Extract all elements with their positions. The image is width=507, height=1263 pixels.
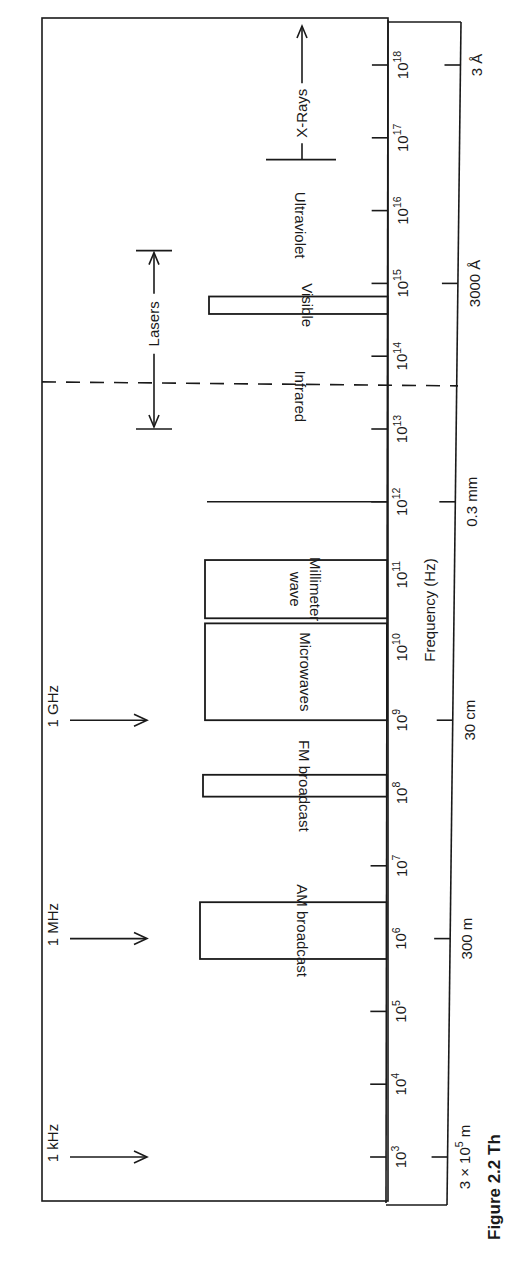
band-visible: [209, 297, 388, 314]
frequency-tick-label: 107: [390, 854, 410, 877]
frequency-tick-label: 1010: [390, 633, 410, 662]
wavelength-tick-label: 30 cm: [461, 700, 478, 741]
frequency-tick-label: 109: [390, 709, 410, 732]
frequency-tick-label: 1015: [391, 269, 411, 298]
frequency-tick-label: 106: [390, 927, 410, 950]
marker-label: 1 kHz: [44, 1124, 61, 1162]
region-label-infrared: Infrared: [292, 370, 309, 422]
wavelength-axis-line: [447, 22, 461, 1205]
wavelength-tick-label: 3 Å: [468, 54, 485, 77]
frequency-tick-label: 108: [390, 782, 410, 805]
frequency-tick-label: 1018: [391, 51, 411, 80]
infrared-boundary-dashed-line: [42, 382, 458, 386]
marker-label: 1 GHz: [44, 685, 61, 728]
electromagnetic-spectrum-diagram: 1031041051061071081091010101110121013101…: [0, 0, 507, 1263]
lasers-label: Lasers: [145, 301, 162, 346]
band-label: wave: [287, 571, 304, 607]
frequency-tick-label: 1016: [391, 196, 411, 225]
frequency-axis-label: Frequency (Hz): [421, 558, 438, 661]
region-label-ultraviolet: Ultraviolet: [292, 192, 309, 260]
frequency-tick-label: 1013: [391, 415, 411, 444]
frequency-tick-label: 1017: [391, 123, 411, 152]
frequency-tick-label: 105: [390, 1000, 410, 1023]
frequency-tick-label: 1014: [391, 342, 411, 371]
marker-label: 1 MHz: [44, 903, 61, 946]
frequency-tick-label: 1012: [390, 487, 410, 516]
frequency-markers: 1 kHz1 MHz1 GHz: [44, 685, 147, 1163]
band-label: FM broadcast: [296, 740, 313, 833]
caption-fragment: Figure 2.2 Th: [485, 1134, 504, 1240]
band-label: Microwaves: [297, 632, 314, 711]
wavelength-tick-label: 3 × 105 m: [453, 1125, 473, 1190]
frequency-tick-label: 1011: [390, 561, 410, 589]
wavelength-tick-label: 3000 Å: [466, 260, 483, 308]
frequency-tick-label: 104: [389, 1073, 409, 1096]
frequency-tick-label: 103: [389, 1146, 409, 1169]
band-label: Visible: [299, 283, 316, 327]
wavelength-tick-label: 0.3 mm: [463, 477, 480, 527]
xrays-label: X-Rays: [293, 89, 310, 138]
band-am-broadcast: [200, 902, 386, 959]
wavelength-tick-label: 300 m: [458, 918, 475, 960]
band-microwaves: [205, 623, 387, 720]
band-label: Millimeter: [307, 557, 324, 621]
band-fm-broadcast: [203, 775, 387, 797]
band-label: AM broadcast: [294, 884, 311, 977]
